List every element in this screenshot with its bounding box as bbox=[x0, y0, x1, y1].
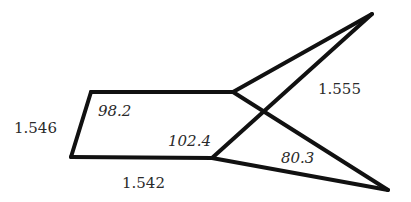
bond-length-right: 1.555 bbox=[318, 80, 361, 98]
angle-top-left: 98.2 bbox=[98, 102, 131, 120]
angle-lower-wedge: 80.3 bbox=[281, 149, 314, 167]
bond-length-left: 1.546 bbox=[14, 119, 57, 137]
bond-length-bottom: 1.542 bbox=[122, 174, 165, 192]
bond-left bbox=[71, 92, 91, 157]
bond-bottom bbox=[71, 157, 212, 158]
diagram-canvas: 1.546 1.542 1.555 98.2 102.4 80.3 bbox=[0, 0, 411, 202]
angle-bottom-right: 102.4 bbox=[168, 132, 211, 150]
